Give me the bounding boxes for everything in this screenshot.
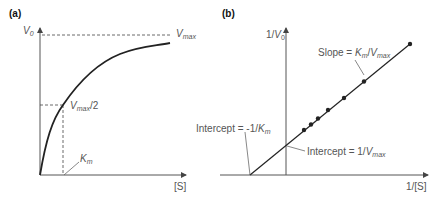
y-intercept-leader-line: [287, 146, 305, 151]
km-leader-line: [64, 162, 79, 175]
panel-b-label: (b): [222, 8, 235, 19]
km-label: Km: [80, 153, 93, 165]
figure: (a) V0 Vmax Vmax/2 Km [S] (b): [0, 0, 439, 204]
panel-a: (a) V0 Vmax Vmax/2 Km [S]: [9, 8, 196, 192]
panel-b: (b) 1/V0 Slope = Km/Vmax Intercept = -1/…: [196, 8, 428, 192]
x-intercept-label: Intercept = -1/Km: [196, 123, 271, 135]
y-axis-label: V0: [23, 25, 34, 37]
vmax-half-label: Vmax/2: [70, 100, 99, 112]
data-point: [309, 122, 313, 126]
y-intercept-label: Intercept = 1/Vmax: [307, 146, 386, 158]
data-point: [408, 42, 412, 46]
michaelis-menten-curve: [40, 43, 170, 175]
data-point: [316, 116, 320, 120]
data-point: [362, 79, 366, 83]
data-point: [326, 108, 330, 112]
x-axis-label: 1/[S]: [406, 181, 427, 192]
data-point: [342, 96, 346, 100]
x-intercept-leader-line: [245, 132, 250, 175]
x-axis-label: [S]: [174, 181, 186, 192]
data-point: [302, 128, 306, 132]
y-axis-label: 1/V0: [266, 29, 285, 41]
panel-a-label: (a): [9, 8, 21, 19]
slope-label: Slope = Km/Vmax: [318, 47, 391, 59]
slope-leader-line: [355, 60, 364, 75]
vmax-label: Vmax: [176, 28, 196, 40]
